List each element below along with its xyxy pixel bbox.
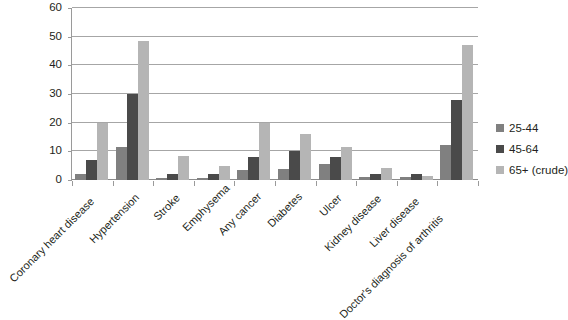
bar: [248, 157, 259, 180]
bar: [451, 100, 462, 180]
bar: [381, 168, 392, 180]
bar: [116, 147, 127, 180]
bar: [319, 164, 330, 180]
bar: [300, 134, 311, 180]
x-axis-tick: [234, 181, 235, 186]
bar: [86, 160, 97, 180]
bar-group: [275, 8, 316, 180]
x-axis-tick: [437, 181, 438, 186]
x-axis-tick: [397, 181, 398, 186]
bar-group: [397, 8, 438, 180]
bar: [97, 123, 108, 180]
legend-swatch-icon: [496, 124, 504, 132]
bar-group: [356, 8, 397, 180]
bar: [341, 147, 352, 180]
bar: [167, 174, 178, 180]
y-axis-tick-label: 50: [0, 31, 62, 43]
bar: [156, 178, 167, 180]
x-axis-category-label: Diabetes: [265, 191, 304, 230]
legend-swatch-icon: [496, 145, 504, 153]
bar-group: [113, 8, 154, 180]
bar: [462, 45, 473, 180]
bar-group: [316, 8, 357, 180]
x-axis-tick: [72, 181, 73, 186]
bar: [197, 178, 208, 180]
x-axis-category-label: Coronary heart disease: [7, 195, 96, 284]
x-axis-tick: [113, 181, 114, 186]
bar: [178, 156, 189, 180]
y-axis-tick-label: 30: [0, 88, 62, 100]
bar-group: [153, 8, 194, 180]
bar: [289, 151, 300, 180]
bar-group: [194, 8, 235, 180]
bar: [278, 169, 289, 180]
bar-group: [234, 8, 275, 180]
bar: [359, 177, 370, 180]
legend-label: 25-44: [509, 122, 538, 134]
bar-group: [437, 8, 478, 180]
y-axis-tick-label: 40: [0, 59, 62, 71]
bar: [138, 41, 149, 180]
bar: [440, 145, 451, 180]
legend-item: 25-44: [496, 117, 564, 138]
bar: [411, 174, 422, 180]
legend-label: 45-64: [509, 143, 538, 155]
plot-area: [72, 8, 478, 180]
bar: [370, 174, 381, 180]
bar: [400, 177, 411, 180]
bar: [75, 174, 86, 180]
bar: [127, 94, 138, 180]
bar: [208, 174, 219, 180]
bar: [422, 176, 433, 180]
y-axis-tick-label: 60: [0, 2, 62, 14]
y-axis-tick-label: 20: [0, 117, 62, 129]
legend-item: 65+ (crude): [496, 159, 564, 180]
x-axis-category-label: Ulcer: [317, 191, 344, 218]
legend-item: 45-64: [496, 138, 564, 159]
legend-swatch-icon: [496, 166, 504, 174]
x-axis-tick: [478, 181, 479, 186]
x-axis-tick: [356, 181, 357, 186]
x-axis-tick: [153, 181, 154, 186]
chart-legend: 25-4445-6465+ (crude): [496, 117, 564, 180]
bar: [259, 123, 270, 180]
bar: [330, 157, 341, 180]
y-axis-tick-label: 10: [0, 145, 62, 157]
bar-group: [72, 8, 113, 180]
x-axis-tick: [316, 181, 317, 186]
bar: [237, 170, 248, 180]
x-axis-tick: [194, 181, 195, 186]
y-axis-tick-label: 0: [0, 174, 62, 186]
x-axis-category-label: Stroke: [151, 191, 182, 222]
bar: [219, 166, 230, 180]
legend-label: 65+ (crude): [509, 164, 568, 176]
x-axis-category-label: Hypertension: [87, 191, 141, 245]
x-axis-tick: [275, 181, 276, 186]
